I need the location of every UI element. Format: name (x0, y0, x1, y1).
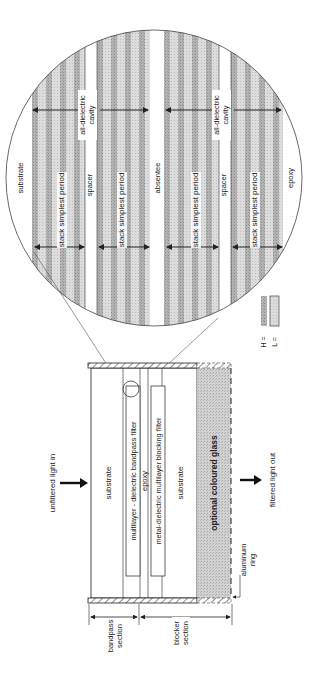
light-out-indicator: filtered light out (240, 452, 277, 507)
blocking-filter-label: metal-dielectric multilayer blocking fil… (154, 417, 163, 544)
stack-1-layers (32, 0, 85, 340)
legend-h-label: H = (260, 336, 267, 347)
coloured-glass-label: optional coloured glass (209, 435, 219, 531)
filter-diagram: substrate stack simplest period spacer a… (0, 0, 314, 679)
cavity-1-label-line1: all-dielectric (78, 95, 87, 135)
mag-epoxy-label: epoxy (286, 168, 295, 188)
legend-h-swatch (261, 296, 267, 326)
legend-l-label: L = (271, 337, 278, 347)
aluminum-ring-callout: aluminum ring (233, 544, 257, 597)
legend: H = L = (260, 296, 279, 348)
stack-1-label: stack simplest period (57, 173, 66, 248)
stack-2-label: stack simplest period (117, 173, 126, 248)
bandpass-section-line2: section (115, 624, 124, 648)
legend-l-swatch (270, 296, 279, 326)
top-ring (88, 363, 197, 368)
stack-3-label: stack simplest period (191, 173, 200, 248)
mag-substrate-label: substrate (16, 163, 25, 194)
stack-2-layers (97, 0, 150, 340)
stack-4-layers (231, 0, 283, 340)
epoxy-label: epoxy (140, 471, 149, 491)
stack-3-layers (164, 0, 219, 340)
cavity-1-label-line2: cavity (87, 105, 96, 124)
housing-substrate-bottom: substrate (176, 466, 185, 499)
housing-substrate-top: substrate (104, 466, 113, 499)
aluminum-ring-line1: aluminum (239, 544, 248, 577)
light-in-label: unfiltered light in (48, 454, 57, 512)
bandpass-section-line1: bandpass (106, 619, 115, 652)
stack-4-label: stack simplest period (250, 173, 259, 248)
blocker-section-line1: blocker (172, 620, 181, 645)
arrow-right-icon (254, 475, 262, 485)
light-in-indicator: unfiltered light in (48, 454, 88, 512)
section-dimensions: bandpass section blocker section (89, 604, 232, 652)
bottom-ring (88, 598, 197, 603)
aluminum-ring-line2: ring (248, 554, 257, 567)
spacer-1-label: spacer (85, 173, 94, 196)
bandpass-filter-label: multilayer - dielectric bandpass filter (129, 421, 138, 541)
blocker-section-line2: section (181, 621, 190, 645)
light-out-label: filtered light out (268, 452, 277, 507)
cavity-2-label-line1: all-dielectric (212, 95, 221, 135)
cavity-2-label-line2: cavity (221, 105, 230, 124)
arrow-right-icon (80, 478, 88, 488)
absentee-label: absentee (153, 163, 162, 194)
spacer-2-label: spacer (219, 173, 228, 196)
